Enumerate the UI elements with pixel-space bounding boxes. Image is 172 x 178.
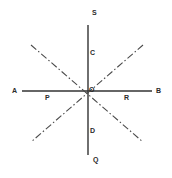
point-label-R: R: [124, 94, 129, 101]
point-label-D: D: [90, 127, 95, 134]
point-label-Q: Q: [93, 156, 98, 163]
point-label-O: O: [89, 86, 94, 93]
point-label-C: C: [90, 49, 95, 56]
point-label-S: S: [92, 9, 97, 16]
geometry-figure: A B S Q P R O C D: [0, 0, 172, 178]
point-label-P: P: [45, 94, 50, 101]
point-label-A: A: [12, 87, 17, 94]
solid-lines-group: [22, 25, 152, 155]
point-label-B: B: [156, 87, 161, 94]
figure-canvas: [0, 0, 172, 178]
